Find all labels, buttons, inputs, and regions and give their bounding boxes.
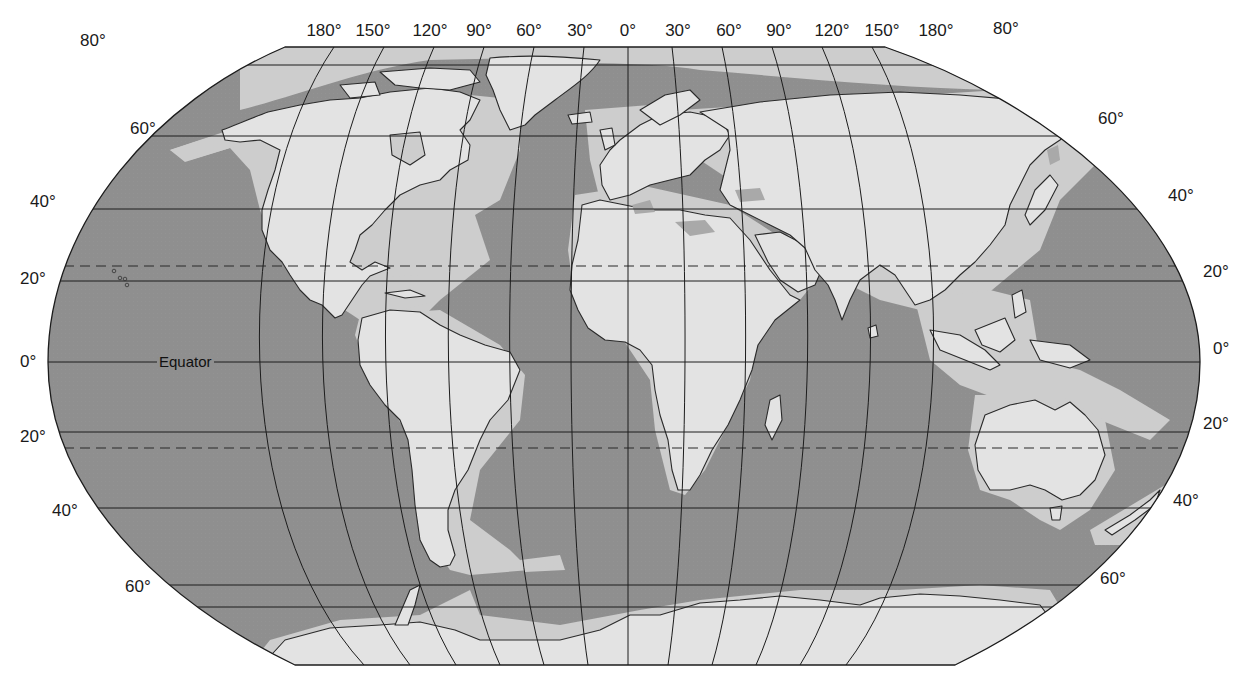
lon-label-180w: 180° [306,22,341,39]
lon-label-90w: 90° [466,22,492,39]
lat-label-right-20n: 20° [1203,263,1229,280]
lon-label-60w: 60° [516,22,542,39]
lon-label-120w: 120° [412,22,447,39]
lat-label-right-0: 0° [1213,340,1229,357]
lat-label-left-80n: 80° [80,32,106,49]
lat-label-left-0: 0° [20,353,36,370]
lon-label-90e: 90° [766,22,792,39]
lat-label-left-60n: 60° [130,120,156,137]
lat-label-left-20s: 20° [20,428,46,445]
lat-label-right-40n: 40° [1168,187,1194,204]
lon-label-180e: 180° [918,22,953,39]
equator-label: Equator [157,354,214,369]
lon-label-150w: 150° [355,22,390,39]
lon-label-150e: 150° [864,22,899,39]
lat-label-right-80n: 80° [993,20,1019,37]
australia [975,400,1105,500]
lat-label-right-40s: 40° [1173,492,1199,509]
lat-label-left-40n: 40° [30,193,56,210]
lat-label-left-20n: 20° [20,270,46,287]
lon-label-30w: 30° [567,22,593,39]
lat-label-left-60s: 60° [125,578,151,595]
lat-label-right-20s: 20° [1203,415,1229,432]
lon-label-30e: 30° [665,22,691,39]
world-map [0,0,1252,683]
lat-label-left-40s: 40° [52,502,78,519]
lon-label-120e: 120° [814,22,849,39]
lon-label-0: 0° [620,22,636,39]
lat-label-right-60n: 60° [1098,110,1124,127]
lon-label-60e: 60° [716,22,742,39]
lat-label-right-60s: 60° [1100,570,1126,587]
